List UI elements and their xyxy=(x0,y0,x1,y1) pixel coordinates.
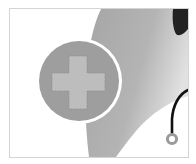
stethoscope-chestpiece-icon xyxy=(167,134,176,143)
medical-illustration xyxy=(10,9,188,157)
illustration-frame xyxy=(9,8,189,158)
hair-shape xyxy=(173,9,188,35)
